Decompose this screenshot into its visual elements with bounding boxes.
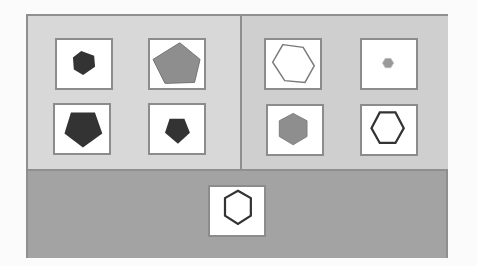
pentagon-icon — [150, 40, 204, 88]
tile-answer-hexagon-outline[interactable] — [208, 185, 266, 237]
puzzle-frame — [26, 14, 448, 258]
answer-panel — [28, 169, 446, 258]
hexagon-icon — [210, 187, 264, 235]
tile-pentagon-small-dark[interactable] — [148, 103, 206, 155]
tile-pentagon-large-gray[interactable] — [148, 38, 206, 90]
hexagon-icon — [362, 106, 416, 154]
hexagon-icon — [362, 40, 416, 88]
left-panel-pentagons — [28, 16, 240, 169]
pentagon-icon — [150, 105, 204, 153]
pentagon-icon — [55, 105, 109, 153]
hexagon-icon — [268, 106, 322, 154]
tile-pentagon-small-dark-rotated[interactable] — [55, 38, 113, 90]
tile-hexagon-tiny-gray[interactable] — [360, 38, 418, 90]
right-panel-hexagons — [240, 16, 448, 169]
tile-hexagon-medium-outline[interactable] — [360, 104, 418, 156]
pentagon-icon — [57, 40, 111, 88]
hexagon-icon — [266, 40, 320, 88]
tile-hexagon-medium-gray[interactable] — [266, 104, 324, 156]
tile-hexagon-large-outline-rotated[interactable] — [264, 38, 322, 90]
tile-pentagon-large-dark[interactable] — [53, 103, 111, 155]
